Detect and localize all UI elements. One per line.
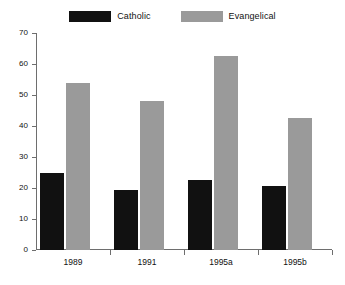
plot-area: 010203040506070 198919911995a1995b <box>36 33 332 250</box>
y-tick-label: 30 <box>19 151 28 162</box>
legend-label-catholic: Catholic <box>117 11 150 22</box>
legend-item-evangelical: Evangelical <box>181 11 276 22</box>
y-tick-label: 20 <box>19 182 28 193</box>
x-tick-label-1989: 1989 <box>36 257 110 268</box>
bar-evangelical-1995b[interactable] <box>288 118 312 250</box>
legend-label-evangelical: Evangelical <box>229 11 276 22</box>
x-tick <box>184 250 185 255</box>
x-tick-label-1995a: 1995a <box>184 257 258 268</box>
x-tick <box>258 250 259 255</box>
y-tick-label: 10 <box>19 213 28 224</box>
y-tick-label: 70 <box>19 27 28 38</box>
x-tick <box>110 250 111 255</box>
y-tick-label: 50 <box>19 89 28 100</box>
y-tick: 0 <box>32 250 36 251</box>
bar-chart: Catholic Evangelical 010203040506070 198… <box>0 0 345 285</box>
y-tick-label: 0 <box>24 244 28 255</box>
chart-legend: Catholic Evangelical <box>0 11 345 22</box>
bar-catholic-1995a[interactable] <box>188 180 212 250</box>
y-tick-label: 40 <box>19 120 28 131</box>
y-tick-label: 60 <box>19 58 28 69</box>
legend-item-catholic: Catholic <box>69 11 150 22</box>
x-tick-label-1995b: 1995b <box>258 257 332 268</box>
bar-group: 1989 <box>36 33 110 250</box>
bar-catholic-1995b[interactable] <box>262 186 286 250</box>
bar-catholic-1989[interactable] <box>40 173 64 251</box>
legend-swatch-evangelical <box>181 11 223 22</box>
bar-group: 1991 <box>110 33 184 250</box>
x-tick-label-1991: 1991 <box>110 257 184 268</box>
legend-swatch-catholic <box>69 11 111 22</box>
bar-group: 1995a <box>184 33 258 250</box>
bar-evangelical-1995a[interactable] <box>214 56 238 250</box>
x-tick <box>332 250 333 255</box>
bar-evangelical-1991[interactable] <box>140 101 164 250</box>
bars-layer: 198919911995a1995b <box>36 33 332 250</box>
bar-catholic-1991[interactable] <box>114 190 138 250</box>
bar-evangelical-1989[interactable] <box>66 83 90 250</box>
bar-group: 1995b <box>258 33 332 250</box>
